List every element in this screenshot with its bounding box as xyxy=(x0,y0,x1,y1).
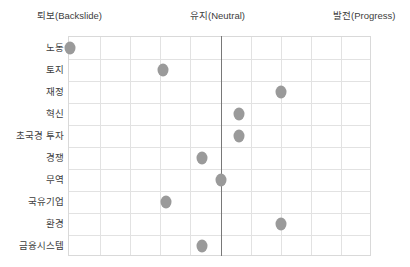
y-axis-tick-label: 경쟁 xyxy=(0,152,64,163)
scatter-chart: 퇴보(Backslide) 유지(Neutral) 발전(Progress) 노… xyxy=(0,0,410,267)
y-axis-category-labels: 노동토지재정혁신초국경 투자경쟁무역국유기업환경금융시스템 xyxy=(0,36,64,256)
vertical-gridline xyxy=(100,37,101,255)
y-axis-tick-label: 혁신 xyxy=(0,108,64,119)
data-point xyxy=(197,152,208,165)
horizontal-gridline xyxy=(69,147,370,148)
y-axis-tick-label: 초국경 투자 xyxy=(0,130,64,141)
y-axis-tick-label: 재정 xyxy=(0,86,64,97)
vertical-gridline xyxy=(130,37,131,255)
vertical-gridline xyxy=(341,37,342,255)
vertical-gridline xyxy=(190,37,191,255)
x-axis-caption-progress: 발전(Progress) xyxy=(333,10,395,22)
y-axis-tick-label: 금융시스템 xyxy=(0,240,64,251)
horizontal-gridline xyxy=(69,235,370,236)
vertical-gridline xyxy=(311,37,312,255)
data-point xyxy=(275,218,286,231)
data-point xyxy=(197,240,208,253)
horizontal-gridline xyxy=(69,191,370,192)
data-point xyxy=(233,108,244,121)
horizontal-gridline xyxy=(69,213,370,214)
data-point xyxy=(233,130,244,143)
data-point xyxy=(275,86,286,99)
horizontal-gridline xyxy=(69,81,370,82)
y-axis-tick-label: 무역 xyxy=(0,174,64,185)
plot-area xyxy=(68,36,371,256)
x-axis-caption-neutral: 유지(Neutral) xyxy=(190,10,245,22)
horizontal-gridline xyxy=(69,169,370,170)
horizontal-gridline xyxy=(69,59,370,60)
x-axis-caption-backslide: 퇴보(Backslide) xyxy=(37,10,102,22)
neutral-centerline xyxy=(221,36,222,256)
horizontal-gridline xyxy=(69,103,370,104)
y-axis-tick-label: 토지 xyxy=(0,64,64,75)
x-axis-captions: 퇴보(Backslide) 유지(Neutral) 발전(Progress) xyxy=(0,10,410,26)
data-point xyxy=(158,64,169,77)
y-axis-tick-label: 환경 xyxy=(0,218,64,229)
data-point xyxy=(215,174,226,187)
vertical-gridline xyxy=(251,37,252,255)
y-axis-tick-label: 노동 xyxy=(0,42,64,53)
data-point xyxy=(65,42,76,55)
y-axis-tick-label: 국유기업 xyxy=(0,196,64,207)
horizontal-gridline xyxy=(69,125,370,126)
data-point xyxy=(161,196,172,209)
